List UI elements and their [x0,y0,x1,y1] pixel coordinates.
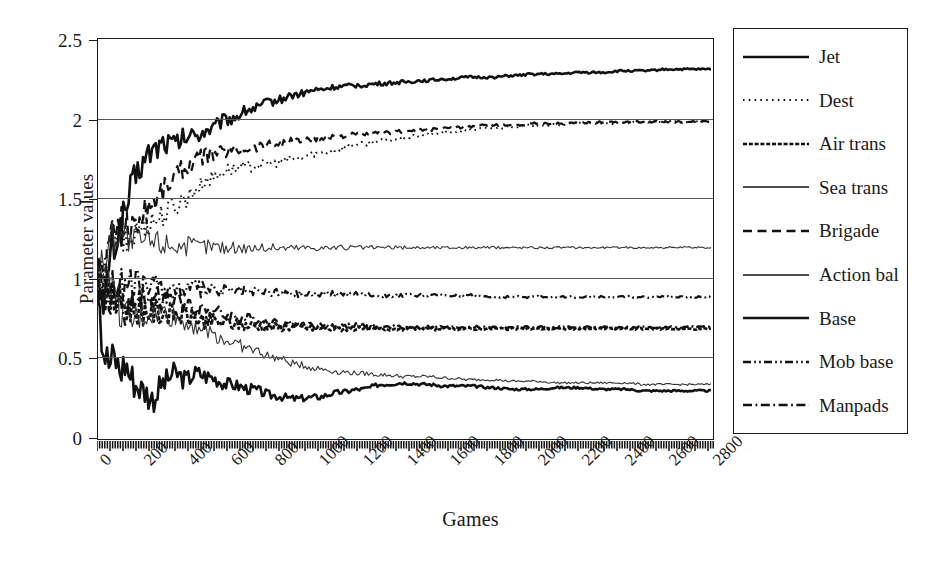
legend-item-label: Base [819,309,856,328]
y-tick-label: 0 [38,429,82,448]
legend-item-label: Brigade [819,221,879,240]
y-tick-label: 1 [38,269,82,288]
legend-line-sample-icon [742,137,810,151]
legend-line-sample-icon [742,93,810,107]
series-line-manpads [98,261,711,328]
gridline [98,357,713,358]
legend-line-sample-icon [742,355,810,369]
legend-line-sample-icon [742,268,810,282]
legend-item-mob-base[interactable]: Mob base [734,342,907,382]
legend-item-label: Dest [819,91,854,110]
legend-item-air-trans[interactable]: Air trans [734,124,907,164]
legend-item-jet[interactable]: Jet [734,37,907,77]
gridline [98,119,713,120]
y-axis-title: Parameter values [14,38,48,440]
legend-item-dest[interactable]: Dest [734,80,907,120]
legend-item-base[interactable]: Base [734,298,907,338]
series-lines [98,39,711,437]
legend: JetDestAir transSea transBrigadeAction b… [733,28,908,434]
legend-item-label: Jet [819,47,840,66]
x-axis-title: Games [0,508,941,531]
legend-item-label: Mob base [819,352,893,371]
series-line-dest [98,121,711,290]
legend-item-label: Sea trans [819,178,888,197]
legend-item-sea-trans[interactable]: Sea trans [734,167,907,207]
legend-item-action-bal[interactable]: Action bal [734,255,907,295]
y-tick-label: 0.5 [38,349,82,368]
y-tick-label: 2.5 [38,31,82,50]
legend-item-manpads[interactable]: Manpads [734,385,907,425]
legend-line-sample-icon [742,311,810,325]
legend-item-brigade[interactable]: Brigade [734,211,907,251]
y-tick-label: 2 [38,110,82,129]
chart-figure: Parameter values 00.511.522.5 0200400600… [0,0,941,561]
legend-item-label: Action bal [819,265,899,284]
legend-line-sample-icon [742,224,810,238]
series-line-brigade [98,121,711,283]
x-tick-label: 2800 [709,432,747,470]
legend-line-sample-icon [742,50,810,64]
legend-line-sample-icon [742,398,810,412]
series-line-action-bal [98,221,711,292]
x-tick-label: 0 [96,450,116,470]
series-line-mob-base [98,258,711,303]
gridline [98,278,713,279]
legend-line-sample-icon [742,180,810,194]
legend-item-label: Air trans [819,134,886,153]
gridline [98,198,713,199]
y-tick-label: 1.5 [38,190,82,209]
plot-area [97,38,714,440]
legend-item-label: Manpads [819,396,889,415]
